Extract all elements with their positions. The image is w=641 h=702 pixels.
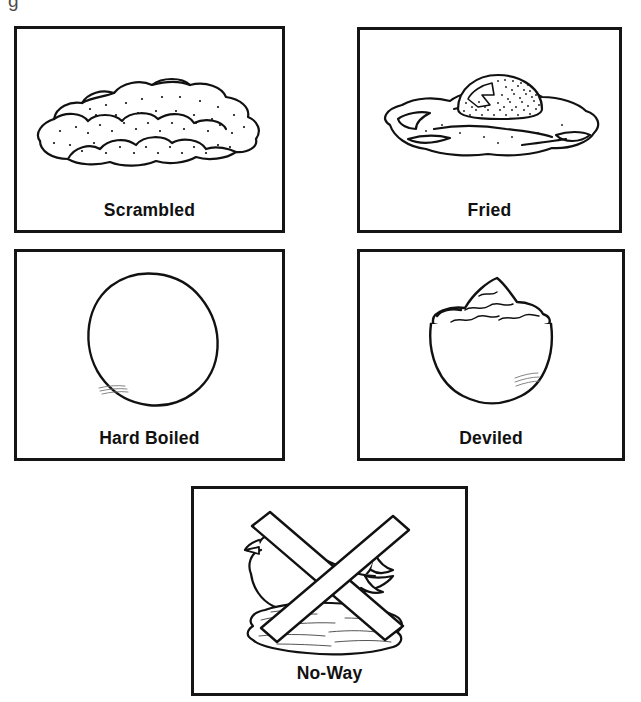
card-label-fried: Fried <box>360 200 619 230</box>
hard-boiled-egg-icon <box>17 252 282 424</box>
card-hardboiled[interactable]: Hard Boiled <box>14 249 285 461</box>
deviled-egg-icon <box>360 252 622 424</box>
fried-egg-icon <box>360 30 619 196</box>
card-noway[interactable]: No-Way <box>191 486 468 696</box>
worksheet-sheet: g <box>0 0 641 702</box>
card-label-deviled: Deviled <box>360 428 622 458</box>
scan-artifact-glyph: g <box>8 0 20 10</box>
scrambled-eggs-icon <box>17 29 282 196</box>
card-scrambled[interactable]: Scrambled <box>14 26 285 233</box>
card-label-hardboiled: Hard Boiled <box>17 428 282 458</box>
card-fried[interactable]: Fried <box>357 27 622 233</box>
card-deviled[interactable]: Deviled <box>357 249 625 461</box>
card-label-noway: No-Way <box>194 663 465 693</box>
card-label-scrambled: Scrambled <box>17 200 282 230</box>
no-eggs-crossed-out-icon <box>194 489 465 659</box>
